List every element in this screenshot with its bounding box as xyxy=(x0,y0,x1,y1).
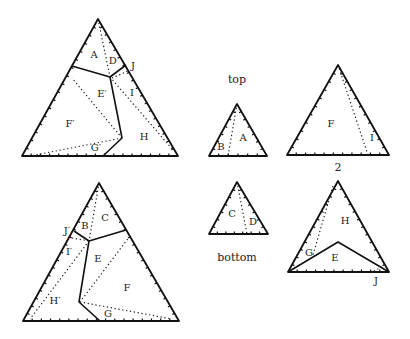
region-label: B xyxy=(217,141,224,152)
region-label: E xyxy=(94,253,101,264)
region-label: F xyxy=(124,282,131,293)
figure-right-bottom: HGEJ xyxy=(288,181,389,286)
region-label: H xyxy=(140,131,149,142)
figure-small-top: BA xyxy=(209,104,267,156)
region-label: G xyxy=(104,308,112,319)
region-label: G xyxy=(305,247,313,258)
region-label: J′ xyxy=(63,225,71,236)
region-label: B xyxy=(81,220,88,231)
region-label: C xyxy=(228,208,236,219)
region-label: F′ xyxy=(65,118,75,129)
region-label: I′ xyxy=(66,246,73,257)
region-label: F xyxy=(328,118,335,129)
caption-bottom: bottom xyxy=(217,251,257,264)
region-label: J xyxy=(130,60,135,71)
diagram-stage: AD′JE′IF′HG′CBJ′I′EFH′GBACDFIHGEJ top bo… xyxy=(0,0,410,339)
region-label: E xyxy=(331,252,338,263)
region-label: G′ xyxy=(91,142,102,153)
region-label: A xyxy=(238,132,247,143)
region-label: H′ xyxy=(50,295,62,306)
triangle-dissection-diagram: AD′JE′IF′HG′CBJ′I′EFH′GBACDFIHGEJ top bo… xyxy=(0,0,410,339)
figure-small-bottom: CD xyxy=(209,182,268,234)
cut-line xyxy=(74,230,126,241)
cut-line xyxy=(72,65,126,77)
figure-right-top: FI xyxy=(287,65,389,155)
region-label: D′ xyxy=(109,55,120,66)
region-label: H xyxy=(341,215,350,226)
region-label: A xyxy=(89,49,98,60)
fold-line xyxy=(30,241,89,319)
region-label: J xyxy=(373,275,378,286)
caption-number: 2 xyxy=(335,161,342,174)
caption-top: top xyxy=(228,73,246,86)
region-label: E′ xyxy=(97,88,107,99)
region-label: I xyxy=(130,87,134,98)
figure-top-left: AD′JE′IF′HG′ xyxy=(22,19,178,156)
region-label: D xyxy=(249,216,257,227)
figure-bottom-left: CBJ′I′EFH′G xyxy=(23,183,179,321)
region-label: C xyxy=(101,212,109,223)
region-label: I xyxy=(370,132,374,143)
fold-line xyxy=(30,138,122,156)
